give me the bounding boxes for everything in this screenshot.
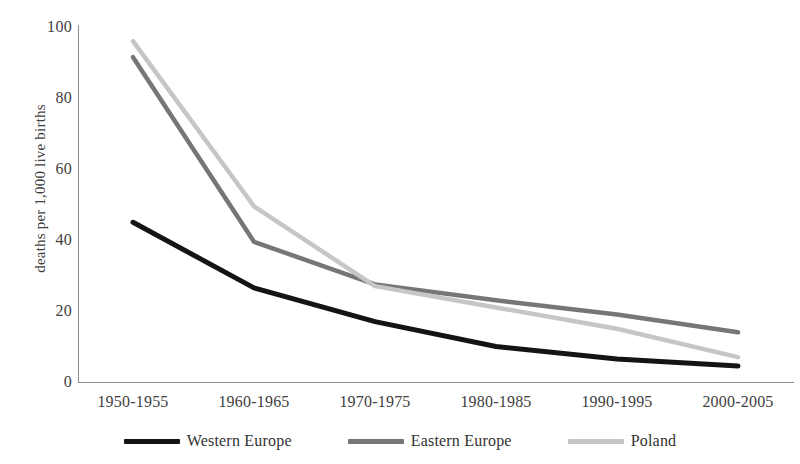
y-tick-label: 60 — [0, 160, 72, 178]
plot-area — [78, 27, 793, 382]
x-axis-line — [78, 382, 794, 383]
legend-label: Eastern Europe — [411, 432, 512, 450]
series-lines — [78, 27, 793, 382]
chart-legend: Western EuropeEastern EuropePoland — [0, 432, 800, 450]
y-tick-label: 100 — [0, 18, 72, 36]
y-tick-label: 20 — [0, 302, 72, 320]
legend-color-swatch — [348, 439, 404, 444]
line-chart: deaths per 1,000 live births 02040608010… — [0, 0, 800, 464]
series-line — [133, 57, 738, 332]
legend-item[interactable]: Eastern Europe — [348, 432, 512, 450]
y-tick-label: 80 — [0, 89, 72, 107]
legend-item[interactable]: Western Europe — [124, 432, 292, 450]
legend-label: Poland — [631, 432, 677, 450]
y-tick-label: 40 — [0, 231, 72, 249]
legend-color-swatch — [124, 439, 180, 444]
legend-item[interactable]: Poland — [568, 432, 677, 450]
x-tick-label: 2000-2005 — [658, 393, 800, 411]
legend-label: Western Europe — [187, 432, 292, 450]
y-tick-label: 0 — [0, 373, 72, 391]
legend-color-swatch — [568, 439, 624, 444]
x-axis-tick-labels: 1950-19551960-19651970-19751980-19851990… — [78, 393, 794, 423]
